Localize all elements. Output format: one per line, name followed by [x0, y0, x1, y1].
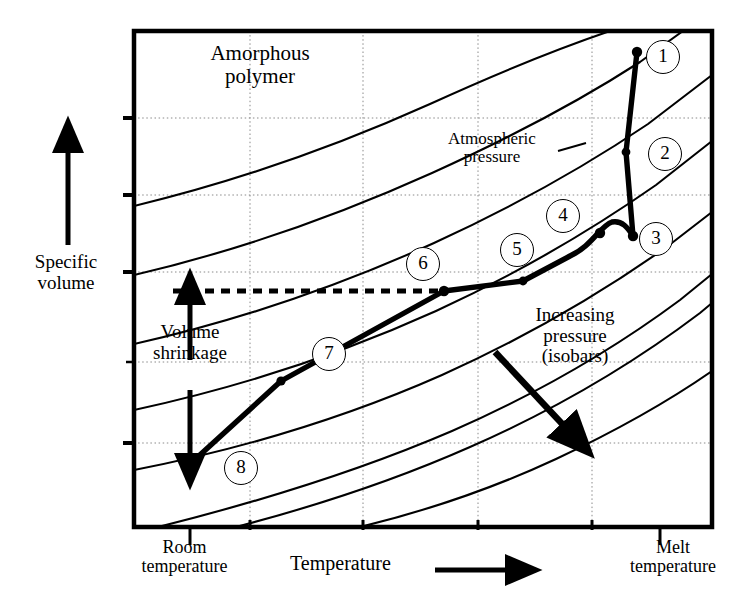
x-axis-label: Temperature — [290, 553, 450, 575]
stage-marker-4: 4 — [546, 199, 580, 233]
x-tick-label-room-temperature: Room temperature — [122, 538, 247, 577]
stage-marker-5: 5 — [500, 233, 534, 267]
chart-title: Amorphous polymer — [170, 42, 350, 87]
x-tick-label-melt-temperature: Melt temperature — [612, 538, 734, 577]
stage-marker-8: 8 — [224, 451, 258, 485]
stage-marker-7: 7 — [312, 337, 346, 371]
increasing-pressure-label: Increasing pressure (isobars) — [490, 305, 660, 367]
stage-marker-3: 3 — [639, 222, 673, 256]
y-axis-label: Specific volume — [6, 252, 126, 293]
atmospheric-pressure-label: Atmospheric pressure — [408, 130, 576, 167]
volume-shrinkage-label: Volume shrinkage — [130, 322, 250, 363]
stage-marker-2: 2 — [648, 137, 682, 171]
stage-marker-1: 1 — [646, 40, 680, 74]
stage-marker-6: 6 — [406, 247, 440, 281]
